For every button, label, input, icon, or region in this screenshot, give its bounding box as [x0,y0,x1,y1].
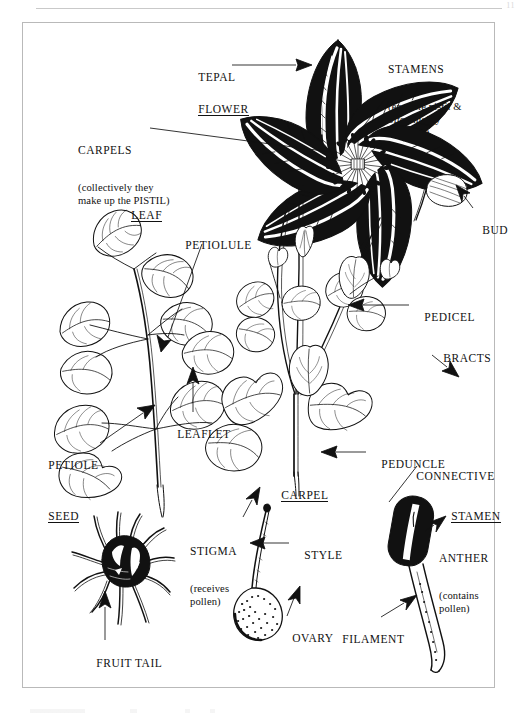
art-seed [72,512,175,625]
label-connective-text: CONNECTIVE [416,470,494,482]
label-petiole: PETIOLE [36,446,98,484]
page-top-rule [36,8,502,9]
label-leaflet: LEAFLET [165,415,231,453]
label-pedicel-text: PEDICEL [424,311,475,323]
label-fruit-tail-text: FRUIT TAIL [96,657,162,669]
label-leaflet-text: LEAFLET [177,428,230,440]
label-petiolule: PETIOLULE [173,226,252,264]
label-stigma-text: STIGMA [190,545,237,558]
label-bracts: BRACTS [431,339,491,377]
label-pedicel: PEDICEL [412,298,475,336]
label-petiole-text: PETIOLE [48,459,98,471]
label-leaf: LEAF [119,196,162,234]
label-petiolule-text: PETIOLULE [185,239,251,251]
label-fruit-tail: FRUIT TAIL [84,644,162,682]
botanical-plate-page: 11 [0,0,517,719]
label-stigma: STIGMA (receives pollen) [190,519,237,634]
label-stamens-text: STAMENS [388,63,462,76]
label-bud-text: BUD [482,224,508,236]
label-ovary-text: OVARY [292,632,333,644]
label-filament-text: FILAMENT [342,633,404,645]
label-connective: CONNECTIVE [404,457,495,495]
label-seed: SEED [36,497,79,535]
label-bracts-text: BRACTS [443,352,491,364]
label-carpel-text: CARPEL [281,489,328,502]
page-number: 11 [506,1,515,10]
scan-artifact-smudge [30,709,280,713]
label-style: STYLE [292,536,343,574]
label-carpel: CARPEL [269,476,328,514]
label-carpels-text: CARPELS [78,144,170,157]
label-tepal-text: TEPAL [198,71,235,83]
label-stigma-detail: (receives pollen) [190,583,237,609]
label-anther-detail: (contains pollen) [439,590,489,616]
label-stamen-text: STAMEN [451,510,500,523]
label-leaf-text: LEAF [131,209,162,222]
label-stamens-detail: (encircle pistil & often highly coloured… [388,101,462,139]
label-flower: FLOWER [186,90,249,128]
art-carpel [234,504,283,640]
label-anther-text: ANTHER [439,552,489,565]
label-ovary: OVARY [280,619,334,657]
label-anther: ANTHER (contains pollen) [439,526,489,641]
label-flower-text: FLOWER [198,103,248,116]
label-style-text: STYLE [304,549,342,561]
label-seed-text: SEED [48,510,79,523]
label-stamens: STAMENS (encircle pistil & often highly … [388,37,462,165]
label-filament: FILAMENT [330,620,404,658]
label-bud: BUD [470,211,508,249]
